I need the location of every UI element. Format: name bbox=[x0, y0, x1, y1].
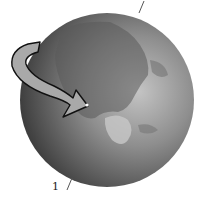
axis-line-bottom bbox=[67, 178, 72, 190]
axis-label: 1 bbox=[52, 180, 59, 193]
location-marker bbox=[85, 103, 88, 106]
globe-diagram bbox=[0, 0, 199, 201]
axis-line-top bbox=[139, 1, 144, 13]
